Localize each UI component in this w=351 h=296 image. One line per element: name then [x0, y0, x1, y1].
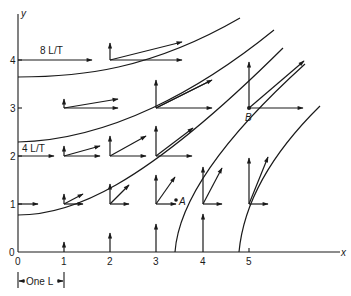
x-tick-2: 2 [107, 256, 113, 267]
streamline-5 [239, 106, 320, 252]
velocity-vectors [18, 42, 304, 252]
y-tick-1: 1 [10, 199, 16, 210]
x-tick-4: 4 [200, 256, 206, 267]
x-tick-0: 0 [15, 256, 21, 267]
scale-bar: One L [18, 272, 64, 288]
streamlines [18, 18, 320, 252]
point-a-marker [174, 198, 178, 202]
y-tick-2: 2 [10, 151, 16, 162]
velocity-label-4: 4 L/T [22, 143, 45, 154]
y-tick-3: 3 [10, 103, 16, 114]
scale-bar-label: One L [26, 276, 54, 287]
y-tick-0: 0 [9, 247, 15, 258]
streamline-diagram: y x 0 1 2 3 4 5 0 1 2 3 4 One L [0, 0, 351, 296]
point-b-label: B [245, 112, 252, 123]
streamline-4 [175, 64, 305, 252]
x-tick-1: 1 [61, 256, 67, 267]
axes [18, 14, 340, 252]
x-tick-3: 3 [153, 256, 159, 267]
velocity-label-8: 8 L/T [40, 45, 63, 56]
x-tick-5: 5 [246, 256, 252, 267]
point-a-label: A [178, 196, 186, 207]
y-axis-label: y [20, 8, 27, 19]
point-b-marker [247, 106, 251, 110]
y-tick-4: 4 [10, 55, 16, 66]
x-axis-label: x [340, 247, 347, 258]
streamline-3 [18, 48, 283, 215]
